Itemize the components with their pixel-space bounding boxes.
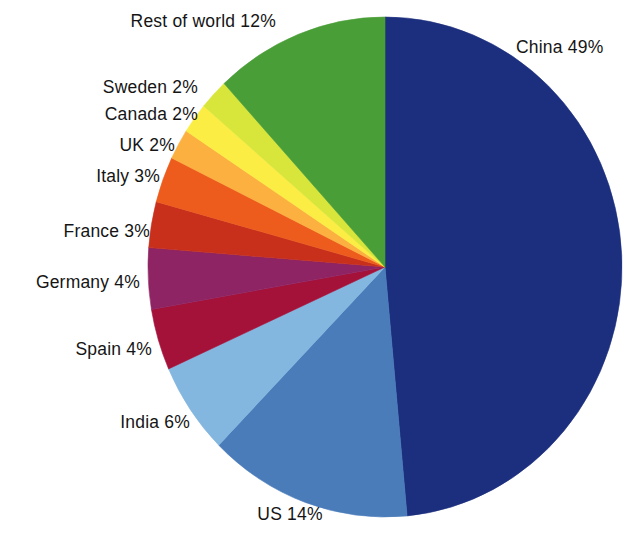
pie-chart-svg	[0, 0, 637, 542]
slice-label-italy: Italy 3%	[96, 167, 160, 187]
slice-label-us: US 14%	[230, 505, 350, 525]
slice-label-canada: Canada 2%	[105, 105, 198, 125]
pie-slice-china	[385, 17, 622, 516]
slice-label-rest-of-world: Rest of world 12%	[131, 12, 276, 32]
slice-label-china: China 49%	[516, 38, 603, 58]
slice-label-uk: UK 2%	[120, 136, 175, 156]
pie-slices-group	[148, 17, 622, 517]
slice-label-india: India 6%	[120, 413, 190, 433]
pie-chart-figure: China 49% Rest of world 12% Sweden 2% Ca…	[0, 0, 637, 542]
slice-label-sweden: Sweden 2%	[103, 78, 198, 98]
slice-label-france: France 3%	[64, 222, 150, 242]
slice-label-germany: Germany 4%	[36, 273, 140, 293]
slice-label-spain: Spain 4%	[75, 340, 152, 360]
